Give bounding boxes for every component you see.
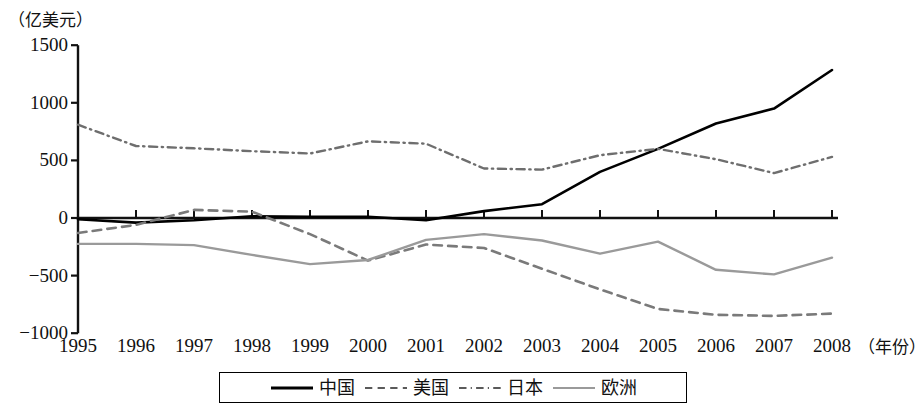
x-tick-label: 1995 <box>49 336 107 355</box>
legend-label: 日本 <box>507 379 543 397</box>
legend-swatch-icon <box>270 381 314 395</box>
series-line-0 <box>78 70 832 223</box>
legend-item-3: 欧洲 <box>552 379 637 397</box>
legend-label: 中国 <box>319 379 355 397</box>
x-tick-label: 1997 <box>165 336 223 355</box>
x-tick-label: 2004 <box>571 336 629 355</box>
x-tick-label: 2005 <box>629 336 687 355</box>
x-tick-label: 2008 <box>803 336 861 355</box>
legend-item-0: 中国 <box>270 379 355 397</box>
y-tick-label: 1500 <box>6 35 68 54</box>
x-tick-label: 2003 <box>513 336 571 355</box>
series-line-3 <box>78 234 832 274</box>
legend-swatch-icon <box>364 381 408 395</box>
x-tick-label: 1996 <box>107 336 165 355</box>
x-tick-label: 1998 <box>223 336 281 355</box>
series-line-1 <box>78 210 832 316</box>
y-tick-label: 500 <box>6 150 68 169</box>
x-tick-label: 2001 <box>397 336 455 355</box>
x-tick-label: 2000 <box>339 336 397 355</box>
legend-item-1: 美国 <box>364 379 449 397</box>
y-tick-label: −500 <box>6 266 68 285</box>
y-tick-label: 1000 <box>6 93 68 112</box>
legend-swatch-icon <box>552 381 596 395</box>
series-line-2 <box>78 125 832 173</box>
x-axis-unit-label: （年份） <box>858 338 919 357</box>
x-tick-label: 2002 <box>455 336 513 355</box>
legend-swatch-icon <box>458 381 502 395</box>
legend-item-2: 日本 <box>458 379 543 397</box>
chart-legend: 中国美国日本欧洲 <box>219 372 687 403</box>
x-tick-label: 2007 <box>745 336 803 355</box>
legend-label: 美国 <box>413 379 449 397</box>
legend-label: 欧洲 <box>601 379 637 397</box>
y-tick-label: 0 <box>6 208 68 227</box>
x-tick-label: 1999 <box>281 336 339 355</box>
x-tick-label: 2006 <box>687 336 745 355</box>
